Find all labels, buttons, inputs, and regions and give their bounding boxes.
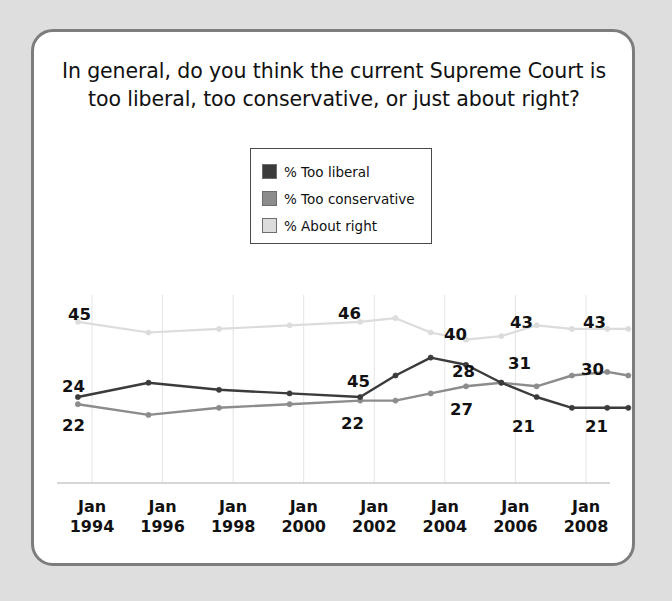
data-point-label: 45 [347,372,370,391]
data-point-marker [428,391,433,396]
data-point-marker [393,373,398,378]
x-tick-year: 2008 [553,517,619,537]
x-axis-tick-label: Jan1996 [130,497,196,537]
data-point-marker [358,394,363,399]
data-point-label: 31 [508,354,531,373]
x-axis-tick-label: Jan2000 [271,497,337,537]
data-point-marker [287,391,292,396]
data-point-marker [569,326,574,331]
x-tick-year: 2002 [341,517,407,537]
x-axis-tick-label: Jan2008 [553,497,619,537]
data-point-marker [216,387,221,392]
data-point-marker [626,405,631,410]
data-point-marker [428,355,433,360]
data-point-label: 43 [510,313,533,332]
data-point-marker [534,323,539,328]
x-tick-month: Jan [130,497,196,517]
data-point-label: 43 [583,313,606,332]
x-tick-month: Jan [341,497,407,517]
data-point-marker [393,316,398,321]
chart-plot-area [31,29,635,566]
data-point-marker [75,402,80,407]
data-point-marker [534,394,539,399]
x-tick-month: Jan [271,497,337,517]
data-point-marker [146,412,151,417]
x-tick-year: 1998 [200,517,266,537]
data-point-label: 30 [581,360,604,379]
data-point-label: 24 [62,377,85,396]
data-point-marker [146,330,151,335]
x-tick-month: Jan [553,497,619,517]
line-chart-svg [31,29,635,566]
data-point-label: 46 [338,304,361,323]
x-axis-tick-label: Jan2002 [341,497,407,537]
x-tick-month: Jan [412,497,478,517]
data-point-marker [287,402,292,407]
data-point-label: 22 [62,416,85,435]
data-point-marker [605,405,610,410]
data-point-label: 45 [68,305,91,324]
x-tick-year: 2000 [271,517,337,537]
x-tick-year: 2006 [482,517,548,537]
data-point-label: 28 [452,362,475,381]
data-point-marker [428,330,433,335]
data-point-label: 21 [585,417,608,436]
data-point-marker [499,380,504,385]
data-point-marker [216,326,221,331]
data-point-marker [534,384,539,389]
data-point-marker [463,384,468,389]
x-tick-month: Jan [59,497,125,517]
screenshot-root: In general, do you think the current Sup… [0,0,672,601]
x-tick-year: 2004 [412,517,478,537]
data-point-marker [626,326,631,331]
data-point-marker [569,405,574,410]
x-axis-tick-label: Jan2006 [482,497,548,537]
data-point-label: 22 [341,414,364,433]
data-point-label: 40 [444,325,467,344]
x-tick-month: Jan [482,497,548,517]
x-tick-year: 1996 [130,517,196,537]
x-axis-tick-label: Jan1994 [59,497,125,537]
data-point-label: 21 [512,417,535,436]
x-tick-month: Jan [200,497,266,517]
data-point-marker [393,398,398,403]
data-point-marker [605,369,610,374]
data-point-marker [146,380,151,385]
x-axis-tick-label: Jan2004 [412,497,478,537]
data-point-marker [499,334,504,339]
data-point-marker [569,373,574,378]
data-point-marker [287,323,292,328]
x-tick-year: 1994 [59,517,125,537]
data-point-marker [216,405,221,410]
data-point-marker [626,373,631,378]
data-point-label: 27 [450,400,473,419]
x-axis-tick-label: Jan1998 [200,497,266,537]
